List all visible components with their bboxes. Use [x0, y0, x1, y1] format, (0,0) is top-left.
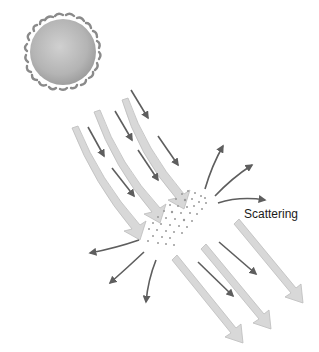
scattering-diagram	[0, 0, 319, 352]
scattering-label: Scattering	[244, 207, 298, 221]
incoming-beams	[72, 98, 190, 240]
sun-icon	[25, 14, 101, 90]
transmitted-beams	[172, 219, 303, 343]
